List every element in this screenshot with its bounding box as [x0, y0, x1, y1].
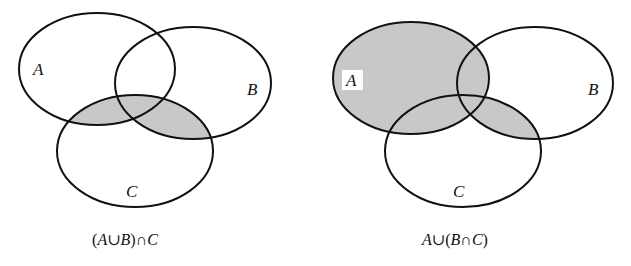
caption-part: ∪ [107, 231, 120, 248]
caption-part: C [147, 231, 158, 248]
diagram-caption: (A∪B)∩C [60, 230, 190, 252]
venn-diagram-union-then-intersect: A B C (A∪B)∩C [0, 0, 315, 266]
caption-part: B [121, 231, 131, 248]
set-b-label: B [247, 80, 258, 99]
caption-part: )∩ [130, 231, 147, 248]
set-a-label: A [345, 71, 357, 90]
diagram-caption: A∪(B∩C) [385, 230, 525, 252]
caption-part: B [451, 231, 461, 248]
caption-part: A [97, 231, 107, 248]
set-c-label: C [453, 182, 465, 201]
caption-part: C [472, 231, 483, 248]
set-b-label: B [588, 80, 599, 99]
venn-diagram-intersect-then-union: A B C A∪(B∩C) [315, 0, 630, 266]
venn-diagram-svg: A B C [0, 0, 315, 266]
set-c-label: C [126, 182, 138, 201]
caption-part: A [422, 231, 432, 248]
set-a-label: A [32, 60, 44, 79]
shaded-region [19, 13, 271, 139]
caption-part: ∪( [432, 231, 451, 248]
caption-part: ) [483, 231, 488, 248]
caption-part: ∩ [460, 231, 472, 248]
venn-diagram-svg: A B C [315, 0, 630, 266]
